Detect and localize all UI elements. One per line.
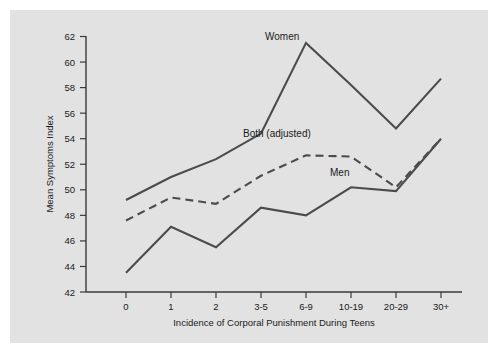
series-line-women [126, 43, 441, 200]
x-tick-label: 6-9 [299, 301, 313, 312]
x-tick-label: 3-5 [254, 301, 268, 312]
x-axis-title: Incidence of Corporal Punishment During … [173, 317, 375, 328]
y-tick-label: 46 [64, 235, 75, 246]
series-line-men [126, 139, 441, 273]
series-label-men: Men [330, 167, 349, 178]
series-line-both-adjusted [126, 139, 441, 221]
y-axis-title: Mean Symptoms Index [44, 115, 55, 212]
series-group [126, 43, 441, 273]
y-tick-marks [80, 37, 86, 293]
series-label-both-adjusted: Both (adjusted) [243, 128, 311, 139]
x-tick-labels: 0123-56-910-1920-2930+ [123, 301, 449, 312]
x-axis-group: 0123-56-910-1920-2930+ Incidence of Corp… [86, 292, 462, 328]
y-tick-label: 50 [64, 184, 75, 195]
x-tick-label: 1 [168, 301, 173, 312]
y-tick-label: 60 [64, 57, 75, 68]
y-tick-label: 58 [64, 82, 75, 93]
y-tick-label: 44 [64, 261, 75, 272]
x-tick-marks [126, 292, 441, 298]
y-tick-label: 42 [64, 287, 75, 298]
y-tick-label: 52 [64, 159, 75, 170]
line-chart: 4244464850525456586062 Mean Symptoms Ind… [0, 0, 498, 361]
y-tick-label: 56 [64, 108, 75, 119]
x-tick-label: 2 [213, 301, 218, 312]
x-tick-label: 20-29 [384, 301, 408, 312]
y-tick-label: 48 [64, 210, 75, 221]
x-tick-label: 10-19 [339, 301, 363, 312]
x-tick-label: 30+ [433, 301, 450, 312]
y-tick-label: 62 [64, 31, 75, 42]
x-tick-label: 0 [123, 301, 128, 312]
y-axis-group: 4244464850525456586062 Mean Symptoms Ind… [44, 31, 86, 298]
series-label-women: Women [265, 31, 299, 42]
y-tick-labels: 4244464850525456586062 [64, 31, 75, 298]
y-tick-label: 54 [64, 133, 75, 144]
chart-figure: 4244464850525456586062 Mean Symptoms Ind… [0, 0, 498, 361]
